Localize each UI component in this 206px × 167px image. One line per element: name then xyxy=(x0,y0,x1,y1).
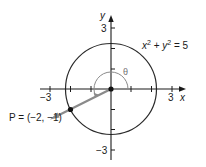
y-axis-arrow-icon xyxy=(108,15,113,22)
terminal-ray xyxy=(56,89,111,117)
origin-point xyxy=(108,86,113,91)
y-tick-label-top: 3 xyxy=(101,24,107,34)
equation-rhs: = 5 xyxy=(174,40,188,51)
x-axis-arrow-icon xyxy=(179,86,186,91)
x-tick-label-left: −3 xyxy=(40,93,51,103)
point-p-label-text: P = (−2, −1) xyxy=(9,112,62,123)
x-axis-label: x xyxy=(180,93,185,103)
equation-plus: + xyxy=(154,40,160,51)
equation-y-exp: 2 xyxy=(167,39,171,46)
point-p-label: P = (−2, −1) xyxy=(9,113,62,123)
y-tick-label-bottom: −3 xyxy=(96,146,107,156)
equation-label: x2 + y2 = 5 xyxy=(142,41,188,51)
theta-label: θ xyxy=(123,68,128,77)
y-axis-label: y xyxy=(100,11,105,21)
point-p xyxy=(68,107,73,112)
equation-x-exp: 2 xyxy=(147,39,151,46)
x-tick-label-right: 3 xyxy=(168,93,174,103)
